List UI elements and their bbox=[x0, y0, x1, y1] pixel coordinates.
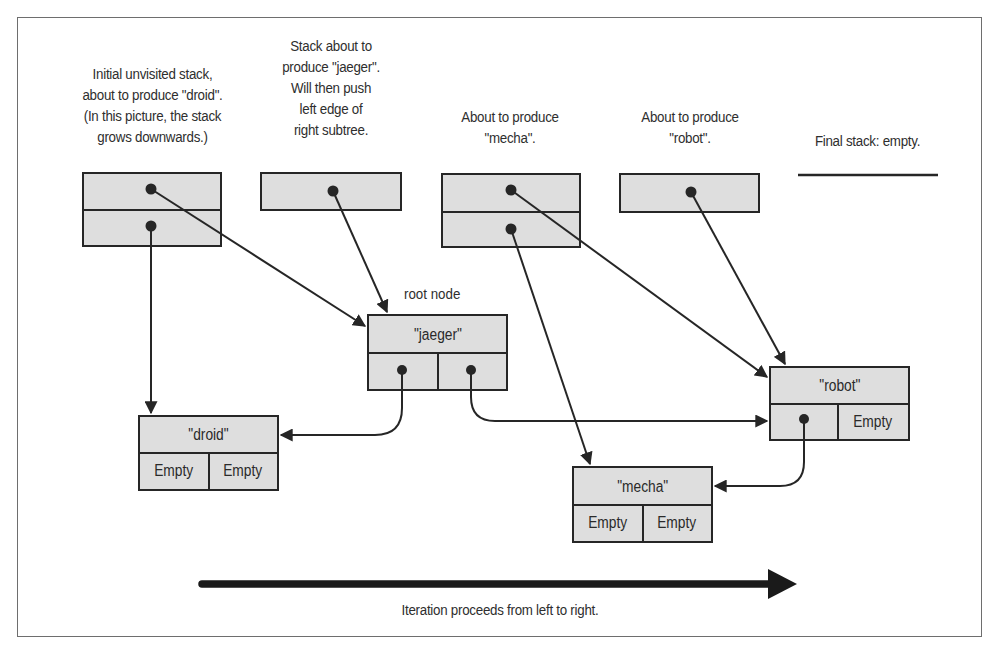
caption-stack-3: About to produce "mecha". bbox=[441, 106, 579, 148]
node-right-child: Empty bbox=[644, 506, 710, 540]
node-right-child: Empty bbox=[839, 405, 907, 438]
node-right-child: Empty bbox=[210, 454, 276, 488]
caption-stack-1: Initial unvisited stack, about to produc… bbox=[56, 63, 250, 147]
caption-line: (In this picture, the stack bbox=[56, 105, 250, 126]
caption-line: about to produce "droid". bbox=[56, 84, 250, 105]
node-robot: "robot" Empty bbox=[769, 366, 910, 441]
caption-line: Final stack: empty. bbox=[797, 130, 939, 151]
node-left-child: Empty bbox=[140, 454, 208, 488]
node-jaeger: "jaeger" bbox=[367, 314, 508, 391]
node-value: "mecha" bbox=[574, 468, 711, 505]
iteration-caption: Iteration proceeds from left to right. bbox=[354, 599, 646, 620]
stack-4 bbox=[619, 173, 760, 213]
empty-label: Empty bbox=[658, 514, 697, 532]
caption-line: Will then push bbox=[267, 77, 396, 98]
node-value-text: "jaeger" bbox=[413, 326, 461, 344]
root-node-label: root node bbox=[404, 285, 460, 303]
caption-line: right subtree. bbox=[267, 119, 396, 140]
stack-divider bbox=[84, 209, 220, 211]
node-value: "droid" bbox=[140, 417, 277, 453]
node-mecha: "mecha" Empty Empty bbox=[572, 466, 713, 543]
caption-line: grows downwards.) bbox=[56, 126, 250, 147]
empty-label: Empty bbox=[155, 462, 194, 480]
caption-line: "mecha". bbox=[441, 127, 579, 148]
node-value: "jaeger" bbox=[369, 316, 506, 353]
caption-line: left edge of bbox=[267, 98, 396, 119]
caption-line: About to produce bbox=[441, 106, 579, 127]
stack-1 bbox=[82, 172, 222, 247]
caption-line: Initial unvisited stack, bbox=[56, 63, 250, 84]
caption-stack-2: Stack about to produce "jaeger". Will th… bbox=[267, 35, 396, 140]
stack-divider bbox=[443, 211, 579, 213]
node-droid: "droid" Empty Empty bbox=[138, 415, 279, 491]
node-value-text: "mecha" bbox=[617, 478, 668, 496]
node-value-text: "robot" bbox=[819, 377, 860, 395]
caption-stack-5: Final stack: empty. bbox=[797, 130, 939, 151]
stack-3 bbox=[441, 173, 581, 248]
node-left-child: Empty bbox=[574, 506, 642, 540]
empty-label: Empty bbox=[589, 514, 628, 532]
empty-label: Empty bbox=[854, 413, 893, 431]
caption-stack-4: About to produce "robot". bbox=[621, 106, 759, 148]
empty-label: Empty bbox=[224, 462, 263, 480]
caption-line: produce "jaeger". bbox=[267, 56, 396, 77]
node-divider bbox=[437, 352, 439, 389]
node-value-text: "droid" bbox=[188, 426, 228, 444]
node-value: "robot" bbox=[771, 368, 908, 404]
caption-line: "robot". bbox=[621, 127, 759, 148]
stack-2 bbox=[260, 172, 402, 211]
caption-line: About to produce bbox=[621, 106, 759, 127]
caption-line: Stack about to bbox=[267, 35, 396, 56]
